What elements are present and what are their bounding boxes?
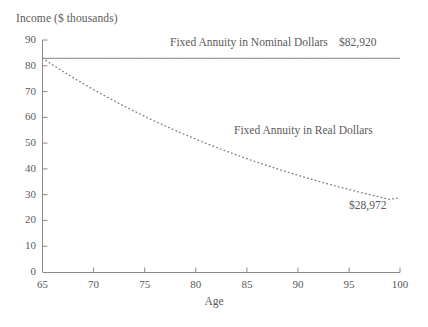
x-tick-label: 70 [79, 278, 109, 290]
y-tick-label: 40 [14, 162, 36, 174]
x-tick-label: 100 [385, 278, 415, 290]
real-value-label: $28,972 [349, 199, 386, 211]
y-tick-label: 10 [14, 239, 36, 251]
x-axis-ticks [94, 268, 400, 273]
y-tick-label: 30 [14, 188, 36, 200]
nominal-series-label: Fixed Annuity in Nominal Dollars [170, 36, 328, 48]
x-tick-label: 90 [283, 278, 313, 290]
y-tick-label: 70 [14, 85, 36, 97]
y-tick-label: 0 [14, 265, 36, 277]
y-tick-label: 50 [14, 136, 36, 148]
y-tick-label: 80 [14, 59, 36, 71]
x-tick-label: 85 [232, 278, 262, 290]
real-series-label: Fixed Annuity in Real Dollars [234, 124, 373, 136]
nominal-value-label: $82,920 [339, 36, 376, 48]
x-tick-label: 65 [28, 278, 58, 290]
y-tick-label: 20 [14, 213, 36, 225]
x-tick-label: 80 [181, 278, 211, 290]
x-tick-label: 95 [334, 278, 364, 290]
y-tick-label: 90 [14, 33, 36, 45]
y-axis-ticks [43, 40, 48, 246]
x-axis-title: Age [0, 295, 428, 307]
y-tick-label: 60 [14, 110, 36, 122]
annuity-income-chart: Income ($ thousands) [0, 0, 428, 327]
x-tick-label: 75 [130, 278, 160, 290]
